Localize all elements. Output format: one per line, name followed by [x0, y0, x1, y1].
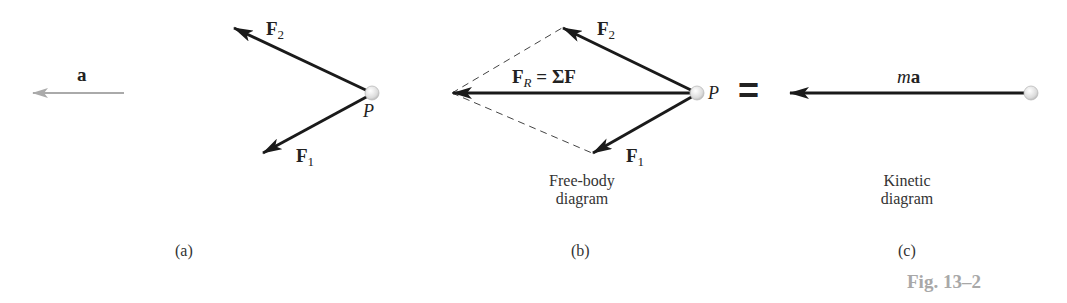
acceleration-label: a	[77, 64, 87, 86]
resultant-force-label: FR = ΣF	[512, 66, 576, 88]
force-2-label: F2	[266, 18, 284, 40]
force-2-subscript: 2	[278, 27, 285, 42]
part-label-b: (b)	[571, 242, 590, 260]
resultant-symbol: F	[512, 66, 524, 87]
kinetic-caption: Kinetic diagram	[857, 172, 957, 208]
force-2-symbol: F	[597, 18, 609, 39]
resultant-subscript: R	[524, 75, 532, 90]
panel-a	[33, 28, 379, 153]
caption-line-2: diagram	[532, 190, 632, 208]
part-label-a: (a)	[175, 242, 193, 260]
panel-b	[452, 28, 704, 153]
free-body-caption: Free-body diagram	[532, 172, 632, 208]
force-2-subscript: 2	[609, 27, 616, 42]
force-2-label: F2	[597, 18, 615, 40]
force-1-symbol: F	[626, 145, 638, 166]
caption-line-1: Free-body	[532, 172, 632, 190]
point-p-label: P	[708, 83, 719, 104]
caption-line-1: Kinetic	[857, 172, 957, 190]
resultant-equation: = ΣF	[536, 66, 576, 87]
panel-c	[790, 86, 1038, 100]
particle	[1024, 86, 1038, 100]
particle-p	[690, 86, 704, 100]
force-1-subscript: 1	[308, 154, 315, 169]
figure-number: Fig. 13–2	[907, 271, 981, 293]
force-1-subscript: 1	[638, 154, 645, 169]
part-label-c: (c)	[898, 242, 916, 260]
force-2-symbol: F	[266, 18, 278, 39]
point-p-label: P	[363, 101, 374, 122]
particle-p	[365, 86, 379, 100]
force-2-arrow	[234, 28, 370, 92]
mass-symbol: m	[897, 66, 911, 87]
equals-sign: =	[738, 70, 759, 112]
accel-symbol: a	[911, 66, 921, 87]
force-1-symbol: F	[296, 145, 308, 166]
force-1-arrow	[263, 95, 370, 153]
force-1-label: F1	[626, 145, 644, 167]
caption-line-2: diagram	[857, 190, 957, 208]
construction-line-lower	[452, 93, 592, 153]
force-1-label: F1	[296, 145, 314, 167]
ma-label: ma	[897, 66, 920, 88]
force-2-arrow	[563, 28, 695, 92]
